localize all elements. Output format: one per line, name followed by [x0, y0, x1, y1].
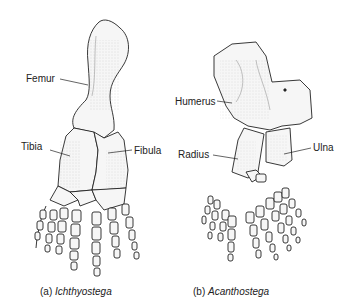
caption-b-taxon: Acanthostega — [208, 286, 269, 297]
label-tibia: Tibia — [21, 141, 42, 153]
label-femur: Femur — [26, 73, 55, 85]
label-humerus: Humerus — [175, 96, 216, 108]
manus-digits — [202, 188, 306, 261]
limb-illustration — [0, 0, 348, 308]
ichthyostega-limb — [35, 20, 139, 276]
caption-a-prefix: (a) — [40, 286, 52, 297]
label-fibula: Fibula — [134, 145, 161, 157]
caption-b: (b) Acanthostega — [193, 286, 269, 297]
caption-a: (a) Ichthyostega — [40, 286, 112, 297]
pes-digits — [35, 204, 139, 276]
caption-b-prefix: (b) — [193, 286, 205, 297]
label-ulna: Ulna — [313, 142, 334, 154]
label-radius: Radius — [178, 149, 209, 161]
acanthostega-limb — [202, 42, 312, 261]
caption-a-taxon: Ichthyostega — [55, 286, 112, 297]
